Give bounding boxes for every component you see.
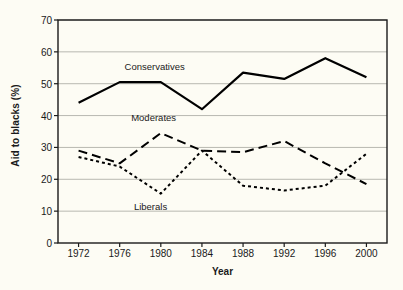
line-chart: Aid to blacks (%) 010203040506070 197219…: [0, 0, 403, 290]
series-label-moderates: Moderates: [131, 112, 176, 123]
series-label-conservatives: Conservatives: [125, 61, 185, 72]
series-label-liberals: Liberals: [134, 201, 167, 212]
plot-area: [0, 0, 403, 290]
x-axis-label: Year: [58, 266, 387, 277]
